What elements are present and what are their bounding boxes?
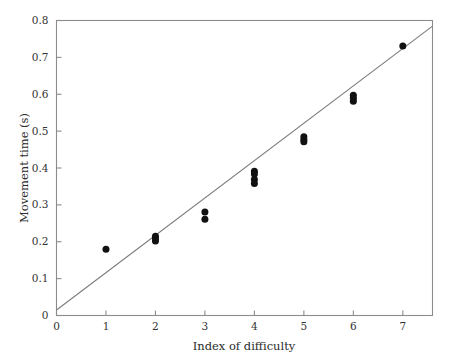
x-axis-tick-marks bbox=[57, 311, 403, 316]
x-axis-title: Index of difficulty bbox=[193, 339, 296, 353]
y-tick-label: 0.6 bbox=[32, 88, 49, 100]
x-tick-label: 3 bbox=[202, 320, 209, 332]
plot-canvas: 00.10.20.30.40.50.60.70.8 01234567 Index… bbox=[0, 0, 454, 362]
x-tick-label: 1 bbox=[103, 320, 110, 332]
y-tick-label: 0.8 bbox=[32, 14, 49, 26]
data-point bbox=[350, 98, 357, 105]
data-point bbox=[102, 246, 109, 253]
y-tick-label: 0.5 bbox=[32, 125, 49, 137]
y-axis-tick-labels: 00.10.20.30.40.50.60.70.8 bbox=[32, 14, 49, 321]
data-point bbox=[251, 180, 258, 187]
y-tick-label: 0.1 bbox=[32, 272, 49, 284]
y-tick-label: 0 bbox=[42, 309, 49, 321]
y-tick-label: 0.7 bbox=[32, 51, 49, 63]
y-tick-label: 0.2 bbox=[32, 235, 49, 247]
y-tick-label: 0.4 bbox=[32, 162, 49, 174]
y-axis-tick-marks bbox=[57, 21, 62, 316]
data-points-group bbox=[102, 42, 406, 252]
y-axis-title: Movement time (s) bbox=[17, 113, 31, 223]
data-point bbox=[300, 138, 307, 145]
x-tick-label: 5 bbox=[301, 320, 308, 332]
data-point bbox=[201, 216, 208, 223]
y-tick-label: 0.3 bbox=[32, 198, 49, 210]
regression-line-group bbox=[57, 26, 433, 310]
data-point bbox=[152, 238, 159, 245]
x-tick-label: 6 bbox=[350, 320, 357, 332]
x-tick-label: 4 bbox=[251, 320, 258, 332]
x-axis-tick-labels: 01234567 bbox=[53, 320, 406, 332]
data-point bbox=[201, 208, 208, 215]
fitts-law-scatter-figure: 00.10.20.30.40.50.60.70.8 01234567 Index… bbox=[0, 0, 454, 362]
x-tick-label: 0 bbox=[53, 320, 60, 332]
data-point bbox=[399, 42, 406, 49]
x-tick-label: 2 bbox=[152, 320, 159, 332]
x-tick-label: 7 bbox=[399, 320, 406, 332]
